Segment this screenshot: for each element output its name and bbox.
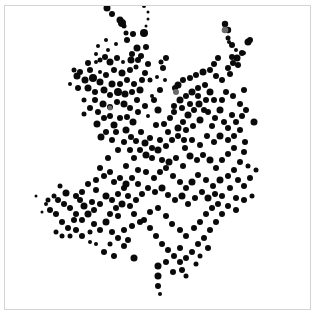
data-point bbox=[94, 60, 98, 64]
data-point bbox=[72, 68, 77, 73]
data-point bbox=[185, 201, 191, 207]
data-point bbox=[117, 175, 123, 181]
data-point bbox=[87, 105, 93, 111]
data-point bbox=[211, 139, 217, 145]
data-point bbox=[169, 221, 175, 227]
data-point bbox=[195, 241, 201, 247]
data-point bbox=[146, 114, 150, 118]
data-point bbox=[114, 99, 120, 105]
data-point bbox=[225, 151, 231, 157]
data-point bbox=[151, 175, 157, 181]
data-point bbox=[155, 273, 162, 280]
data-point bbox=[114, 42, 118, 46]
data-point bbox=[179, 193, 186, 200]
data-point bbox=[109, 81, 116, 88]
data-point bbox=[98, 134, 105, 141]
data-point bbox=[215, 201, 221, 207]
data-point bbox=[82, 98, 87, 103]
data-point bbox=[88, 230, 93, 235]
data-point bbox=[87, 67, 93, 73]
data-point bbox=[97, 79, 104, 86]
data-point bbox=[183, 233, 189, 239]
data-point bbox=[85, 60, 91, 66]
data-point bbox=[198, 254, 203, 259]
data-point bbox=[233, 119, 239, 125]
data-point bbox=[217, 107, 224, 114]
data-point bbox=[53, 211, 59, 217]
data-point bbox=[101, 115, 107, 121]
data-point bbox=[233, 207, 239, 213]
data-point bbox=[177, 245, 183, 251]
data-point bbox=[163, 165, 169, 171]
data-point bbox=[131, 81, 137, 87]
data-point bbox=[54, 230, 59, 235]
data-point bbox=[203, 97, 209, 103]
data-point bbox=[227, 71, 233, 77]
data-point bbox=[74, 73, 81, 80]
data-point bbox=[140, 29, 148, 37]
data-point bbox=[131, 211, 137, 217]
data-point bbox=[219, 193, 225, 199]
data-point bbox=[139, 191, 145, 197]
data-point bbox=[135, 57, 141, 63]
data-point bbox=[180, 77, 186, 83]
data-point bbox=[35, 195, 38, 198]
data-point bbox=[109, 229, 115, 235]
data-point bbox=[91, 207, 97, 213]
data-point bbox=[210, 183, 216, 189]
data-point bbox=[111, 179, 117, 185]
data-point bbox=[241, 149, 247, 155]
data-point bbox=[60, 234, 65, 239]
data-point bbox=[118, 19, 126, 27]
data-point bbox=[123, 181, 130, 188]
data-point bbox=[203, 211, 209, 217]
data-point bbox=[191, 225, 197, 231]
data-point bbox=[125, 193, 131, 199]
data-point bbox=[182, 145, 188, 151]
data-point bbox=[226, 36, 231, 41]
data-point bbox=[100, 101, 107, 108]
data-point bbox=[125, 237, 131, 243]
data-point bbox=[94, 121, 101, 128]
data-point bbox=[91, 221, 97, 227]
data-point bbox=[46, 198, 51, 203]
data-point bbox=[152, 189, 158, 195]
data-point bbox=[237, 101, 243, 107]
data-point bbox=[155, 147, 162, 154]
data-point bbox=[161, 121, 167, 127]
data-point bbox=[147, 18, 150, 21]
data-point bbox=[61, 201, 67, 207]
data-point bbox=[205, 195, 212, 202]
data-point bbox=[124, 77, 130, 83]
data-point bbox=[44, 202, 48, 206]
data-point bbox=[163, 143, 169, 149]
data-point bbox=[171, 109, 177, 115]
data-point bbox=[115, 213, 121, 219]
data-point bbox=[109, 137, 115, 143]
data-point bbox=[127, 67, 133, 73]
data-point bbox=[163, 78, 167, 82]
data-point bbox=[247, 175, 253, 181]
data-point bbox=[73, 227, 79, 233]
data-point bbox=[85, 85, 92, 92]
data-point bbox=[107, 113, 113, 119]
data-point bbox=[203, 177, 209, 183]
data-point bbox=[225, 137, 231, 143]
data-point bbox=[179, 267, 185, 273]
data-point bbox=[239, 113, 245, 119]
data-point bbox=[197, 142, 203, 148]
data-point bbox=[211, 97, 217, 103]
data-point bbox=[149, 155, 155, 161]
data-point bbox=[211, 61, 217, 67]
data-point bbox=[200, 152, 206, 158]
data-point bbox=[104, 38, 108, 42]
data-point bbox=[197, 117, 204, 124]
data-point bbox=[143, 169, 149, 175]
data-point bbox=[157, 169, 163, 175]
data-point bbox=[158, 292, 162, 296]
data-point bbox=[119, 70, 126, 77]
data-point bbox=[94, 52, 98, 56]
data-point bbox=[147, 209, 153, 215]
data-point bbox=[191, 107, 197, 113]
data-point bbox=[95, 109, 101, 115]
